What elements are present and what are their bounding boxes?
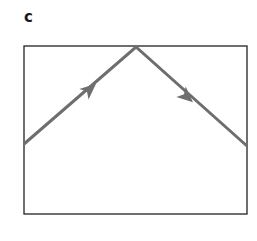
light-ray <box>24 47 247 146</box>
reflection-diagram <box>0 0 257 241</box>
boundary-box <box>24 46 247 214</box>
arrow-down-right-icon <box>176 86 197 107</box>
